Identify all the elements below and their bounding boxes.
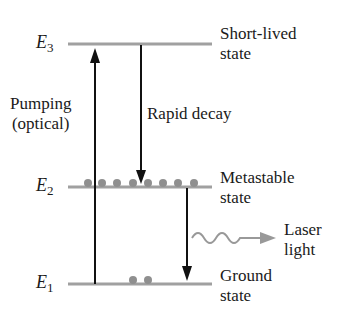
e3-state-label: Short-lived state <box>220 24 297 64</box>
pumping-arrow <box>90 48 100 284</box>
laser-light-label: Laser light <box>284 220 322 260</box>
level-e2-symbol: E2 <box>36 175 54 199</box>
pumping-label: Pumping (optical) <box>10 94 71 134</box>
laser-light-wave-icon <box>192 232 276 244</box>
e1-state-label: Ground state <box>220 266 272 306</box>
e2-state-label: Metastable state <box>220 168 295 208</box>
rapid-decay-arrow <box>136 45 146 184</box>
rapid-decay-label: Rapid decay <box>147 104 232 124</box>
level-e3-symbol: E3 <box>36 32 54 56</box>
laser-transition-arrow <box>182 188 192 281</box>
level-e1-symbol: E1 <box>36 272 54 296</box>
